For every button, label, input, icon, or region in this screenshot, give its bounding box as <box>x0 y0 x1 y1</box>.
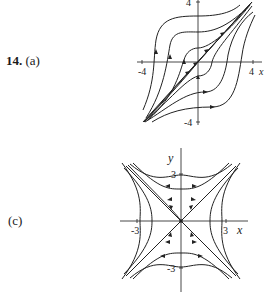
c-xtick-neg: -3 <box>131 225 139 236</box>
a-ytick-neg: -4 <box>184 117 192 128</box>
c-xtick-pos: 3 <box>223 225 228 236</box>
phase-portrait-a: -4 4 x 4 -4 <box>0 0 265 298</box>
c-xlabel: x <box>236 223 243 237</box>
c-ylabel: y <box>167 151 174 165</box>
phase-portrait-c: y 3 -3 -3 3 x <box>120 148 248 292</box>
a-xtick-pos: 4 <box>249 66 254 77</box>
axes-a <box>137 0 262 125</box>
a-xlabel: x <box>258 66 264 77</box>
c-ytick-pos: 3 <box>171 169 176 180</box>
a-xtick-neg: -4 <box>138 66 146 77</box>
c-ytick-neg: -3 <box>167 263 175 274</box>
a-ytick-pos: 4 <box>186 0 191 8</box>
